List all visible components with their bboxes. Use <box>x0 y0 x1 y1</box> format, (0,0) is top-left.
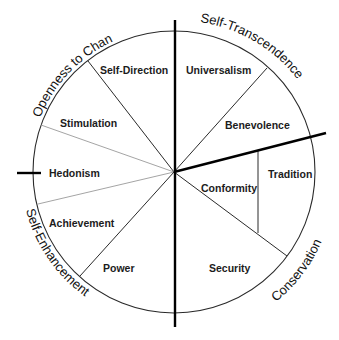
label-benevolence: Benevolence <box>225 119 290 131</box>
label-universalism: Universalism <box>186 64 251 76</box>
label-security: Security <box>209 262 251 274</box>
label-conformity: Conformity <box>201 182 257 194</box>
label-tradition: Tradition <box>268 168 312 180</box>
label-achievement: Achievement <box>49 217 115 229</box>
label-power: Power <box>103 262 135 274</box>
values-circumplex: Self-Direction Universalism Benevolence … <box>0 0 339 340</box>
label-stimulation: Stimulation <box>60 117 117 129</box>
label-hedonism: Hedonism <box>49 167 100 179</box>
label-self-direction: Self-Direction <box>100 64 168 76</box>
